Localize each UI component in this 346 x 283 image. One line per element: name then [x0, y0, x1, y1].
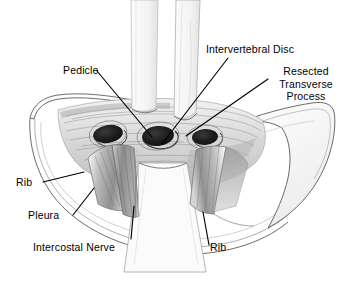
label-intercostal-nerve: Intercostal Nerve: [33, 241, 115, 254]
label-pleura: Pleura: [28, 209, 59, 222]
label-resected-transverse-process: Resected Transverse Process: [270, 65, 342, 103]
retractor-blade-upper-right: [174, 0, 200, 120]
label-resected-line3: Process: [270, 90, 342, 103]
label-resected-line2: Transverse: [270, 78, 342, 91]
label-pedicle: Pedicle: [63, 64, 99, 77]
label-resected-line1: Resected: [270, 65, 342, 78]
label-rib-left: Rib: [16, 176, 32, 189]
anatomy-figure: Pedicle Intervertebral Disc Resected Tra…: [0, 0, 346, 283]
retractor-blade-upper-left: [131, 0, 158, 113]
label-rib-right: Rib: [210, 241, 226, 254]
label-intervertebral-disc: Intervertebral Disc: [206, 43, 294, 56]
